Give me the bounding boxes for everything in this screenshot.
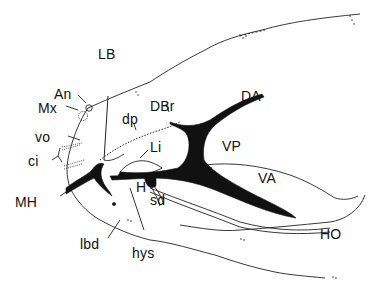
label-dp: dp <box>122 112 138 126</box>
line-drawing <box>0 0 377 296</box>
label-lbd: lbd <box>80 237 99 251</box>
label-H: H <box>136 180 146 194</box>
label-VP: VP <box>222 139 241 153</box>
label-Mx: Mx <box>38 101 57 115</box>
label-LB: LB <box>98 47 116 61</box>
label-MH: MH <box>15 195 37 209</box>
anatomical-figure: LB An Mx vo ci MH dp DBr DA Li VP VA H s… <box>0 0 377 296</box>
label-sd: sd <box>150 193 165 207</box>
label-Li: Li <box>150 140 161 154</box>
label-ci: ci <box>28 154 39 168</box>
label-An: An <box>54 87 72 101</box>
label-hys: hys <box>132 246 154 260</box>
label-DBr: DBr <box>150 99 175 113</box>
label-HO: HO <box>320 227 341 241</box>
label-vo: vo <box>35 130 50 144</box>
label-DA: DA <box>241 89 261 103</box>
label-VA: VA <box>258 171 276 185</box>
